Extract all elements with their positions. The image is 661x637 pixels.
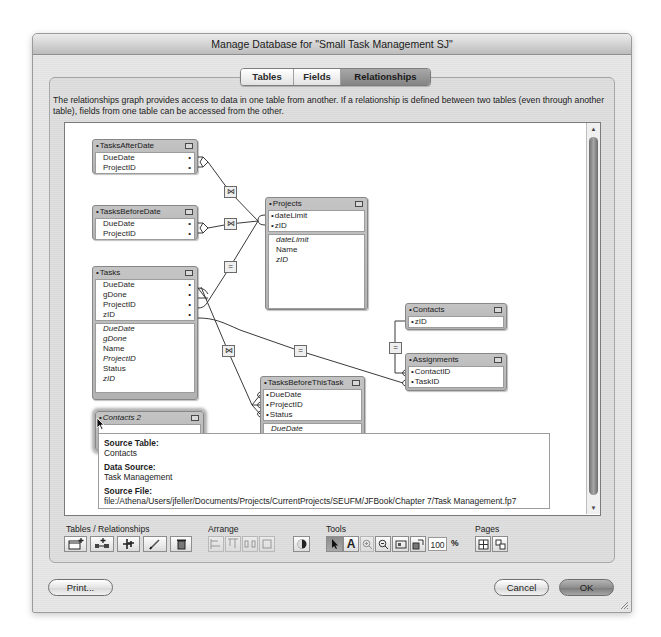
tab-tables[interactable]: Tables <box>241 69 294 85</box>
field-row[interactable]: gDone <box>96 334 194 344</box>
other-fields: DueDate gDone Name ProjectID Status zID <box>95 323 195 393</box>
table-header[interactable]: • Assignments <box>408 354 504 366</box>
field-row[interactable]: Name <box>269 245 364 255</box>
field-row[interactable]: ProjectID• <box>96 163 194 173</box>
table-header[interactable]: • Tasks <box>95 267 195 279</box>
field-row[interactable]: ProjectID <box>96 354 194 364</box>
table-header[interactable]: • TasksBeforeDate <box>95 206 195 218</box>
page-breaks-icon <box>412 539 424 550</box>
field-row[interactable]: •zID <box>409 317 503 327</box>
page-breaks-button[interactable] <box>410 536 426 552</box>
table-name: Tasks <box>100 267 120 279</box>
field-row[interactable]: •Status <box>264 410 361 420</box>
field-row[interactable]: •ProjectID <box>264 400 361 410</box>
page-grid-button[interactable] <box>475 536 491 552</box>
collapse-icon[interactable] <box>185 143 193 149</box>
align-button[interactable] <box>208 536 224 552</box>
table-name: Projects <box>273 198 302 210</box>
table-occurrence-projects[interactable]: • Projects •dateLimit •zID dateLimit Nam… <box>265 197 368 310</box>
window-title: Manage Database for "Small Task Manageme… <box>33 34 631 55</box>
page-setup-button[interactable] <box>492 536 508 552</box>
field-row[interactable]: zID <box>96 374 194 384</box>
delete-button[interactable] <box>170 536 192 552</box>
zoom-to-fit-button[interactable] <box>392 536 409 552</box>
field-row[interactable]: ProjectID• <box>96 300 194 310</box>
table-header[interactable]: • Projects <box>268 198 365 210</box>
field-row[interactable]: gDone• <box>96 290 194 300</box>
scrollbar-thumb[interactable] <box>589 137 598 495</box>
field-row[interactable]: Name <box>96 344 194 354</box>
relationship-operator-tasks-tasksbeforethistask[interactable]: ⋈ <box>222 345 235 357</box>
cancel-button[interactable]: Cancel <box>494 579 549 596</box>
field-row[interactable]: •ContactID <box>409 367 503 377</box>
table-header[interactable]: • Contacts <box>408 304 504 316</box>
ok-button[interactable]: OK <box>559 579 614 596</box>
zoom-in-button[interactable] <box>360 536 374 552</box>
pointer-tool-button[interactable] <box>326 536 343 552</box>
table-name: Contacts <box>413 304 445 316</box>
tab-fields[interactable]: Fields <box>294 69 341 85</box>
tab-relationships[interactable]: Relationships <box>341 69 430 85</box>
relationship-operator-tasks-projects[interactable]: = <box>224 261 237 273</box>
zoom-out-button[interactable] <box>375 536 391 552</box>
add-relationship-button[interactable] <box>90 536 114 552</box>
field-row[interactable]: dateLimit <box>269 235 364 245</box>
table-header[interactable]: • TasksAfterDate <box>95 140 195 152</box>
scroll-up-arrow-icon[interactable]: ▲ <box>587 124 600 134</box>
add-table-button[interactable] <box>64 536 87 552</box>
field-row[interactable]: DueDate• <box>96 153 194 163</box>
field-port-dot: • <box>188 310 191 320</box>
field-row[interactable]: •DueDate <box>264 390 361 400</box>
collapse-icon[interactable] <box>352 380 360 386</box>
collapse-icon[interactable] <box>355 201 363 207</box>
print-button[interactable]: Print... <box>48 579 113 596</box>
field-row[interactable]: zID• <box>96 310 194 320</box>
table-occurrence-tasksafterdate[interactable]: • TasksAfterDate DueDate• ProjectID• <box>92 139 198 174</box>
collapse-icon[interactable] <box>191 415 199 421</box>
resize-button[interactable] <box>259 536 275 552</box>
relationship-operator-tasksafterdate-projects[interactable]: ⋈ <box>224 186 237 198</box>
table-header[interactable]: • Contacts 2 <box>98 412 201 424</box>
table-bullet: • <box>96 140 99 152</box>
relationship-operator-tasksbeforedate-projects[interactable]: ⋈ <box>224 218 237 230</box>
zoom-level-input[interactable]: 100 <box>428 537 447 551</box>
field-row[interactable]: DueDate• <box>96 280 194 290</box>
table-occurrence-assignments[interactable]: • Assignments •ContactID •TaskID <box>405 353 507 391</box>
field-row[interactable]: •dateLimit <box>269 211 364 221</box>
resize-grip-icon[interactable] <box>619 600 629 610</box>
table-occurrence-contacts[interactable]: • Contacts •zID <box>405 303 507 330</box>
page-grid-icon <box>478 539 489 550</box>
description-text: The relationships graph provides access … <box>53 95 613 117</box>
table-name: TasksBeforeDate <box>100 206 161 218</box>
collapse-icon[interactable] <box>185 209 193 215</box>
duplicate-icon <box>122 538 136 550</box>
vertical-scrollbar[interactable]: ▲ ▼ <box>586 123 600 514</box>
scroll-down-arrow-icon[interactable]: ▼ <box>587 503 600 513</box>
field-row[interactable]: •zID <box>269 221 364 231</box>
edit-button[interactable] <box>143 536 167 552</box>
key-fields: •dateLimit •zID <box>268 210 365 232</box>
collapse-icon[interactable] <box>185 270 193 276</box>
collapse-icon[interactable] <box>494 307 502 313</box>
pencil-icon <box>148 538 162 550</box>
table-header[interactable]: • TasksBeforeThisTask <box>263 377 362 389</box>
text-tool-button[interactable]: A <box>343 536 359 552</box>
page-setup-icon <box>495 539 506 550</box>
relationship-operator-tasks-assignments[interactable]: = <box>294 345 307 357</box>
table-occurrence-tasksbeforedate[interactable]: • TasksBeforeDate DueDate• ProjectID• <box>92 205 198 240</box>
tables-relationships-label: Tables / Relationships <box>66 524 150 534</box>
collapse-icon[interactable] <box>494 357 502 363</box>
field-row[interactable]: •TaskID <box>409 377 503 387</box>
field-row[interactable]: ProjectID• <box>96 229 194 239</box>
align-top-button[interactable] <box>225 536 241 552</box>
relationship-operator-contacts-assignments[interactable]: = <box>389 342 402 354</box>
field-row[interactable]: zID <box>269 255 364 265</box>
duplicate-button[interactable] <box>117 536 140 552</box>
field-row[interactable]: Status <box>96 364 194 374</box>
field-port-dot: • <box>271 221 274 231</box>
distribute-button[interactable] <box>242 536 258 552</box>
field-row[interactable]: DueDate• <box>96 219 194 229</box>
field-row[interactable]: DueDate <box>96 324 194 334</box>
table-occurrence-tasks[interactable]: • Tasks DueDate• gDone• ProjectID• zID• … <box>92 266 198 400</box>
color-button[interactable] <box>293 536 310 552</box>
